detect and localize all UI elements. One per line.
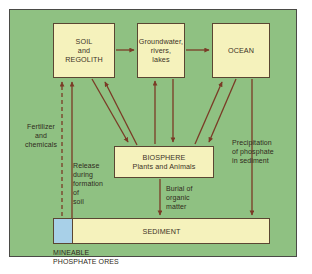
node-sediment-label: SEDIMENT (143, 227, 181, 236)
label-release-during-formation-of-soil: Release during formation of soil (73, 161, 117, 206)
node-sediment: SEDIMENT (53, 218, 270, 244)
node-mineable-phosphate-ores-block (53, 218, 73, 244)
node-groundwater-label: Groundwater, rivers, lakes (139, 37, 183, 64)
arrow-biosphere-to-soil (105, 82, 137, 145)
node-biosphere: BIOSPHERE Plants and Animals (114, 146, 214, 178)
node-soil-label: SOIL and REGOLITH (65, 37, 103, 64)
node-groundwater-rivers-lakes: Groundwater, rivers, lakes (137, 23, 185, 78)
phosphorus-cycle-figure: SOIL and REGOLITH Groundwater, rivers, l… (0, 0, 312, 274)
node-ocean-label: OCEAN (228, 46, 254, 55)
label-fertilizer-and-chemicals: Fertilizer and chemicals (20, 122, 62, 149)
label-precipitation-of-phosphate-in-sediment: Precipitation of phosphate in sediment (232, 138, 294, 165)
arrow-biosphere-to-ocean (195, 82, 222, 144)
label-mineable-phosphate-ores: MINEABLE PHOSPHATE ORES (53, 248, 173, 266)
label-burial-of-organic-matter: Burial of organic matter (166, 184, 208, 211)
node-biosphere-label: BIOSPHERE Plants and Animals (133, 153, 196, 171)
diagram-plate: SOIL and REGOLITH Groundwater, rivers, l… (9, 9, 297, 257)
node-soil-and-regolith: SOIL and REGOLITH (53, 23, 115, 78)
node-ocean: OCEAN (212, 23, 270, 78)
arrow-ocean-to-biosphere (209, 79, 236, 142)
arrow-soil-to-biosphere (92, 79, 128, 142)
